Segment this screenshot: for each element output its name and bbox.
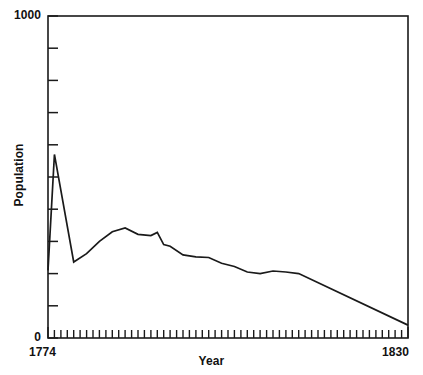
plot-frame [48,16,408,338]
chart-canvas [0,0,423,375]
y-axis-min-tick-label: 0 [3,330,41,344]
population-line-chart: 1000 0 1774 1830 Population Year [0,0,423,375]
x-axis-title: Year [0,354,423,368]
y-axis-max-tick-label: 1000 [3,8,41,22]
y-axis-title: Population [12,130,26,220]
